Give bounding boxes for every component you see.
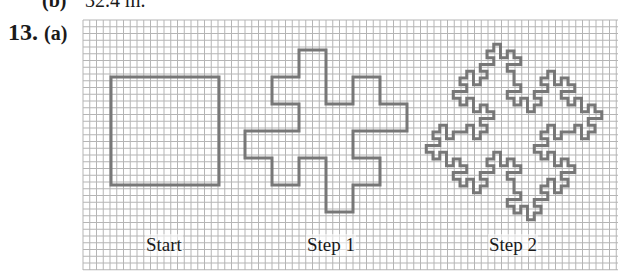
caption-step-2: Step 2 <box>488 234 538 256</box>
caption-start: Start <box>145 234 183 256</box>
koch-fractal-figure <box>0 0 618 272</box>
caption-step-1: Step 1 <box>306 234 356 256</box>
